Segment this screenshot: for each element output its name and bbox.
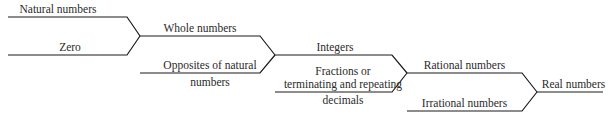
node-integers: Integers — [290, 41, 380, 54]
edge-natural-whole — [8, 17, 140, 36]
node-fractions-line2: terminating and repeating — [278, 78, 408, 91]
node-fractions-line3: decimals — [278, 94, 408, 107]
node-fractions-line1: Fractions or — [278, 65, 408, 78]
node-real-numbers: Real numbers — [536, 78, 611, 91]
edge-rational-real — [407, 73, 537, 92]
node-zero: Zero — [40, 41, 100, 54]
node-opposites-line1: Opposites of natural — [150, 59, 270, 72]
node-opposites-line2: numbers — [150, 76, 270, 89]
node-irrational-numbers: Irrational numbers — [412, 97, 517, 110]
node-natural-numbers: Natural numbers — [8, 3, 108, 16]
node-rational-numbers: Rational numbers — [412, 59, 517, 72]
edge-whole-integers — [140, 36, 275, 55]
node-whole-numbers: Whole numbers — [150, 22, 250, 35]
